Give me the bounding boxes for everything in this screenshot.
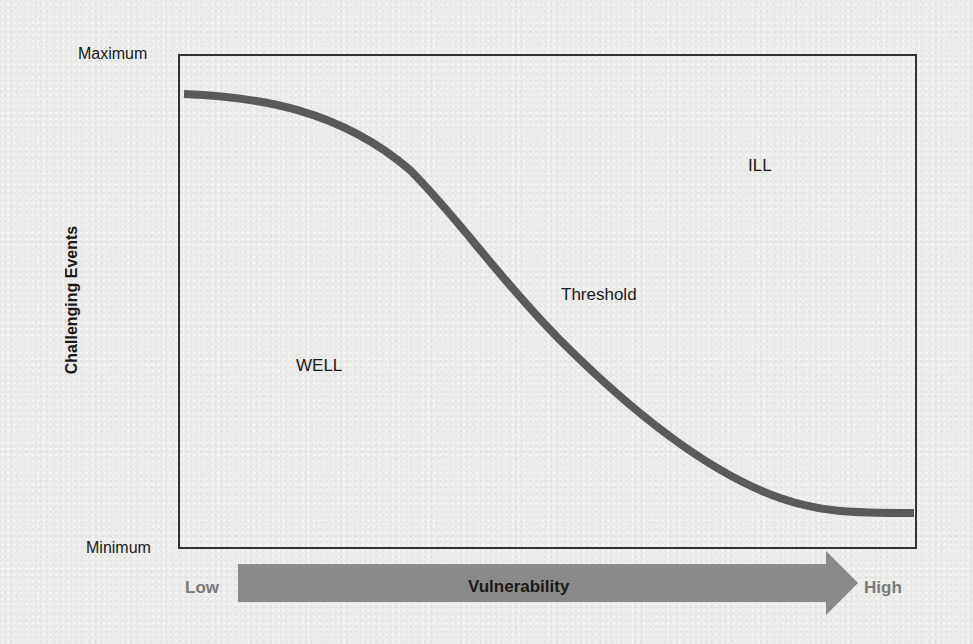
x-axis-high-label: High [864, 578, 902, 598]
region-well-label: WELL [296, 356, 342, 376]
region-ill-label: ILL [748, 156, 772, 176]
y-axis-min-label: Minimum [86, 539, 151, 557]
y-axis-title: Challenging Events [63, 226, 81, 374]
threshold-label: Threshold [561, 285, 637, 305]
plot-frame [179, 55, 916, 548]
y-axis-max-label: Maximum [78, 45, 147, 63]
x-axis-low-label: Low [185, 578, 219, 598]
x-axis-title: Vulnerability [468, 577, 569, 597]
threshold-curve [184, 94, 914, 513]
